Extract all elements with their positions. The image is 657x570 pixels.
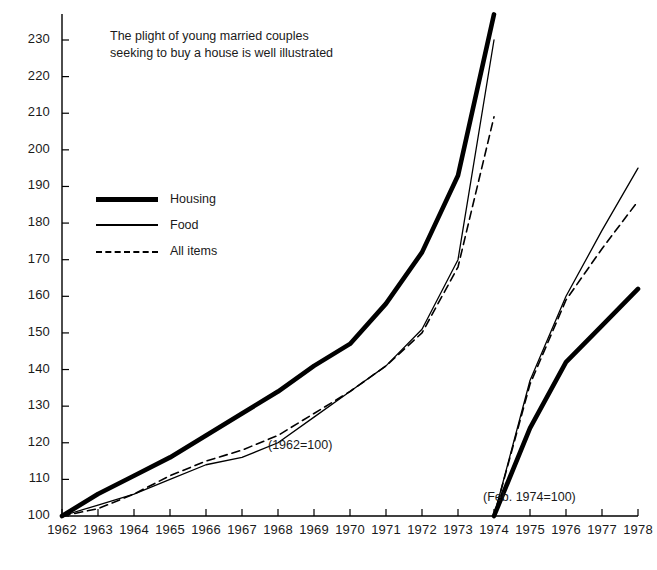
legend-item-food: Food [96,212,217,238]
y-tick-label: 150 [16,324,50,339]
legend-swatch-food-icon [96,219,158,231]
legend-swatch-all-items-icon [96,245,158,257]
y-tick-label: 220 [16,68,50,83]
note-text: The plight of young married couples seek… [110,28,340,62]
y-tick-label: 130 [16,397,50,412]
y-tick-label: 120 [16,434,50,449]
y-tick-label: 100 [16,507,50,522]
y-tick-label: 210 [16,104,50,119]
y-tick-label: 160 [16,287,50,302]
annotation-base-1974: (Feb. 1974=100) [483,490,576,504]
legend-label-housing: Housing [170,192,216,206]
legend: Housing Food All items [96,186,217,264]
y-tick-label: 200 [16,141,50,156]
annotation-base-1962: (1962=100) [268,438,332,452]
legend-swatch-housing-icon [96,193,158,205]
y-tick-label: 170 [16,251,50,266]
y-tick-label: 190 [16,177,50,192]
legend-label-food: Food [170,218,199,232]
legend-label-all-items: All items [170,244,217,258]
legend-item-housing: Housing [96,186,217,212]
legend-item-all-items: All items [96,238,217,264]
y-tick-label: 230 [16,31,50,46]
y-tick-label: 110 [16,470,50,485]
y-tick-label: 180 [16,214,50,229]
x-tick-label: 1978 [616,522,657,537]
series-line-housing [494,289,638,516]
y-tick-label: 140 [16,361,50,376]
